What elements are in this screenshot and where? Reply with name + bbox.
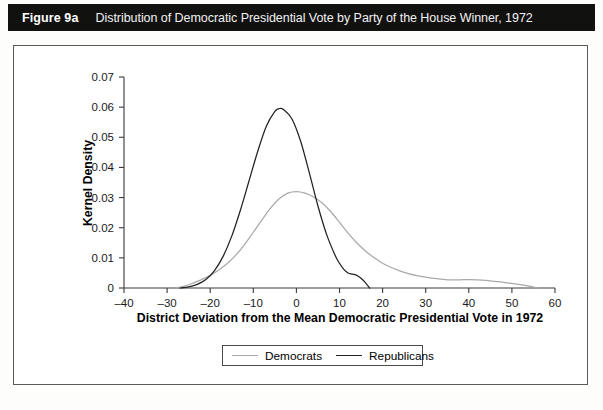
figure-frame-border bbox=[13, 45, 588, 385]
legend-label-democrats: Democrats bbox=[265, 349, 322, 363]
legend-label-republicans: Republicans bbox=[369, 349, 434, 363]
legend-row: Democrats Republicans bbox=[223, 346, 422, 365]
figure-page: Figure 9a Distribution of Democratic Pre… bbox=[0, 0, 603, 410]
figure-number-label: Figure 9a bbox=[22, 11, 78, 25]
legend-line-swatch-republicans-icon bbox=[336, 355, 362, 356]
chart-legend: Democrats Republicans bbox=[222, 345, 423, 366]
figure-header-bar: Figure 9a Distribution of Democratic Pre… bbox=[8, 4, 595, 31]
legend-entry-democrats: Democrats bbox=[232, 349, 322, 363]
legend-line-swatch-democrats-icon bbox=[232, 355, 258, 356]
figure-caption-label: Distribution of Democratic Presidential … bbox=[95, 11, 532, 25]
legend-entry-republicans: Republicans bbox=[336, 349, 434, 363]
